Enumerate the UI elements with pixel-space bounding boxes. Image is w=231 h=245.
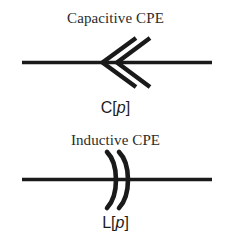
inductive-label-suffix: ]	[124, 214, 128, 231]
capacitive-label-prefix: C[	[101, 99, 117, 116]
capacitive-label-suffix: ]	[126, 99, 130, 116]
inductive-cpe-group: Inductive CPE L[p]	[0, 122, 231, 245]
capacitive-cpe-label: C[p]	[0, 99, 231, 117]
capacitive-label-param: p	[117, 99, 126, 116]
cpe-symbol-figure: Capacitive CPE C[p] Inductive CPE L[p]	[0, 0, 231, 245]
inductive-label-prefix: L[	[102, 214, 115, 231]
inductive-cpe-label: L[p]	[0, 214, 231, 232]
capacitive-cpe-group: Capacitive CPE C[p]	[0, 0, 231, 122]
